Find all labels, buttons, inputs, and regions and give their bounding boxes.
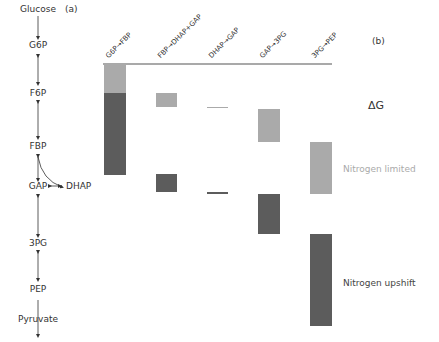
metabolite-pyruvate: Pyruvate [18, 314, 58, 324]
legend-nitrogen-upshift: Nitrogen upshift [343, 278, 415, 288]
bar-upshift-dhap-gap [207, 192, 228, 194]
metabolite-glucose: Glucose [20, 4, 56, 14]
bar-upshift-fbp-dhap-gap [156, 174, 177, 192]
metabolite-pep: PEP [30, 284, 47, 294]
bar-limited-3pg-pep [310, 142, 332, 194]
metabolite-g6p: G6P [29, 40, 47, 50]
metabolite-f6p: F6P [30, 88, 46, 98]
bar-upshift-g6p-fbp [104, 93, 126, 175]
legend-nitrogen-limited: Nitrogen limited [343, 164, 416, 174]
metabolite-3pg: 3PG [29, 238, 47, 248]
panel-a-label: (a) [65, 4, 78, 14]
legend-delta-g: ΔG [368, 99, 384, 112]
bar-upshift-gap-3pg [258, 194, 280, 234]
panel-b-label: (b) [372, 36, 385, 46]
bar-limited-dhap-gap [207, 107, 228, 108]
bar-upshift-3pg-pep [310, 234, 332, 326]
metabolite-gap: GAP [29, 181, 48, 191]
metabolite-dhap: DHAP [66, 181, 91, 191]
bar-limited-gap-3pg [258, 109, 280, 142]
bar-limited-g6p-fbp [104, 64, 126, 93]
bar-limited-fbp-dhap-gap [156, 93, 177, 107]
metabolite-fbp: FBP [30, 141, 47, 151]
